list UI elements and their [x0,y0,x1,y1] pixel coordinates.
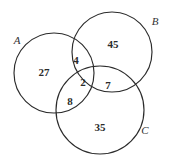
set-label-c: C [141,124,149,136]
set-circle-a [14,33,94,113]
venn-diagram-canvas: A B C 27 45 35 4 8 7 2 [0,0,170,163]
region-value-b-and-c: 7 [105,79,111,91]
region-value-c-only: 35 [95,121,107,133]
region-value-a-and-b-and-c: 2 [80,76,86,88]
set-label-a: A [13,34,21,46]
venn-diagram: A B C 27 45 35 4 8 7 2 [0,0,170,163]
region-value-a-and-b: 4 [73,54,79,66]
region-value-b-only: 45 [108,38,120,50]
region-value-a-and-c: 8 [67,95,73,107]
region-value-a-only: 27 [39,66,51,78]
set-label-b: B [152,15,159,27]
